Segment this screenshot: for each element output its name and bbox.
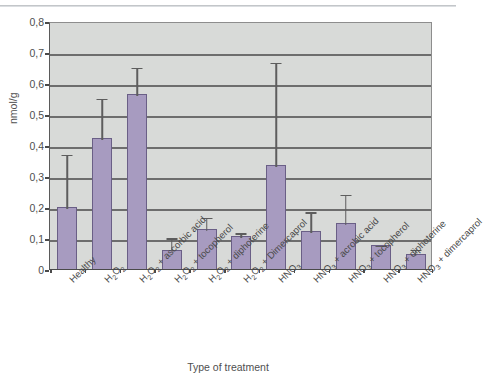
- bar: [231, 236, 251, 269]
- subscript: 3: [434, 263, 443, 272]
- bar-slot: [189, 23, 224, 269]
- bar: [57, 207, 77, 269]
- error-bar-cap: [201, 218, 212, 220]
- y-tick-label: 0,8: [3, 17, 44, 27]
- bar-slot: [294, 23, 329, 269]
- bar-slot: [224, 23, 259, 269]
- x-tick-mark: [120, 269, 122, 273]
- error-bar-cap: [375, 246, 386, 248]
- x-tick-mark: [329, 269, 331, 273]
- y-tick-label: 0,3: [3, 172, 44, 182]
- error-bar-cap: [271, 63, 282, 65]
- bar-slot: [120, 23, 155, 269]
- subscript: 2: [110, 273, 119, 282]
- bar-slot: [259, 23, 294, 269]
- error-bar-stem: [206, 218, 208, 232]
- error-bar-stem: [276, 63, 278, 168]
- x-tick-mark: [224, 269, 226, 273]
- bar: [92, 138, 112, 269]
- x-tick-mark: [154, 269, 156, 273]
- x-tick-mark: [294, 269, 296, 273]
- y-tick-label: 0,1: [3, 234, 44, 244]
- y-tick-mark: [45, 270, 49, 272]
- x-tick-mark: [432, 269, 434, 273]
- bar: [406, 254, 426, 269]
- error-bar-cap: [410, 250, 421, 252]
- subscript: 2: [145, 273, 154, 282]
- error-bar-cap: [132, 68, 143, 70]
- error-bar-cap: [306, 212, 317, 214]
- error-bar-cap: [340, 195, 351, 197]
- x-tick-mark: [85, 269, 87, 273]
- bar: [371, 245, 391, 270]
- y-tick-label: 0,2: [3, 203, 44, 213]
- error-bar-cap: [236, 233, 247, 235]
- x-tick-mark: [259, 269, 261, 273]
- x-tick-mark: [363, 269, 365, 273]
- error-bar-cap: [97, 99, 108, 101]
- error-bar-stem: [345, 195, 347, 225]
- bar: [127, 94, 147, 269]
- bar: [197, 229, 217, 269]
- y-tick-label: 0,5: [3, 110, 44, 120]
- bar-slot: [329, 23, 364, 269]
- y-tick-label: 0,7: [3, 48, 44, 58]
- error-bar-stem: [67, 155, 69, 209]
- x-tick-mark: [398, 269, 400, 273]
- subscript: 2: [180, 273, 189, 282]
- bar-slot: [363, 23, 398, 269]
- error-bar-stem: [310, 212, 312, 233]
- x-tick-mark: [50, 269, 52, 273]
- y-tick-label: 0,4: [3, 141, 44, 151]
- bar-slot: [85, 23, 120, 269]
- bar-slot: [154, 23, 189, 269]
- bar: [266, 165, 286, 269]
- bar-slot: [398, 23, 433, 269]
- bar-slot: [50, 23, 85, 269]
- plot-area: [49, 22, 432, 270]
- error-bar-stem: [101, 99, 103, 140]
- error-bar-cap: [62, 155, 73, 157]
- y-tick-label: 0,6: [3, 79, 44, 89]
- page-rule-line-shadow: [0, 6, 456, 7]
- error-bar-cap: [166, 238, 177, 240]
- y-tick-label: 0: [3, 265, 44, 275]
- x-tick-mark: [189, 269, 191, 273]
- subscript: 2: [250, 273, 259, 282]
- error-bar-stem: [171, 238, 173, 251]
- bar: [301, 231, 321, 269]
- bar: [162, 250, 182, 270]
- x-axis-title: Type of treatment: [0, 361, 456, 373]
- bar: [336, 223, 356, 269]
- subscript: 2: [215, 273, 224, 282]
- error-bar-stem: [136, 68, 138, 96]
